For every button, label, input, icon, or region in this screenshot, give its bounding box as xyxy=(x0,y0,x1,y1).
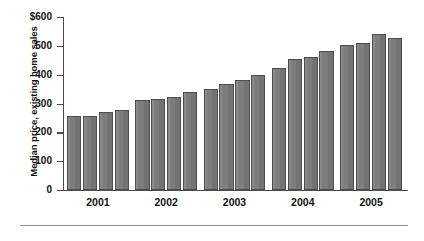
x-axis-line xyxy=(63,190,408,191)
x-axis-group-label: 2004 xyxy=(278,196,328,208)
y-axis-tick-label: $600 xyxy=(30,11,52,22)
y-axis-tick-label: 400 xyxy=(35,69,52,80)
bar xyxy=(235,80,249,190)
bar xyxy=(99,112,113,190)
bar xyxy=(272,68,286,190)
bar xyxy=(167,97,181,190)
bar xyxy=(388,38,402,190)
y-axis-tick-label: 0 xyxy=(46,184,52,195)
bar-series xyxy=(63,17,408,190)
bar xyxy=(219,84,233,190)
bar xyxy=(372,34,386,190)
bar xyxy=(288,59,302,190)
y-axis-tick-label: 200 xyxy=(35,126,52,137)
y-axis-tick-label: 500 xyxy=(35,40,52,51)
bar xyxy=(356,43,370,190)
bar xyxy=(340,45,354,190)
bar xyxy=(183,92,197,190)
x-axis-group-label: 2001 xyxy=(73,196,123,208)
bar xyxy=(319,51,333,190)
bar xyxy=(67,116,81,190)
bar xyxy=(151,99,165,190)
x-axis-group-label: 2002 xyxy=(141,196,191,208)
x-axis-group-label: 2003 xyxy=(210,196,260,208)
bar xyxy=(304,57,318,190)
chart-figure: Median price, existing home sales $60050… xyxy=(0,0,424,241)
y-axis-tick-label: 100 xyxy=(35,155,52,166)
x-axis-group-label: 2005 xyxy=(346,196,396,208)
bottom-divider xyxy=(20,225,408,226)
y-axis-tick xyxy=(57,190,63,191)
bar xyxy=(115,110,129,190)
bar xyxy=(204,89,218,190)
y-axis-tick-label: 300 xyxy=(35,98,52,109)
bar xyxy=(83,116,97,190)
bar xyxy=(135,100,149,190)
bar xyxy=(251,75,265,190)
